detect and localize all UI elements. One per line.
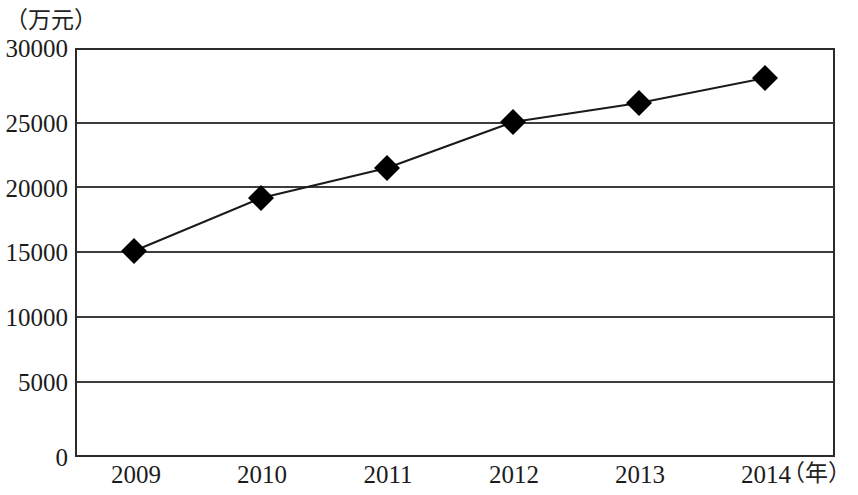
x-tick-label: 2012 xyxy=(454,462,574,488)
x-tick-label: 2013 xyxy=(580,462,700,488)
line-chart: （万元） 30000 25000 20000 15000 10000 5000 … xyxy=(0,0,858,495)
x-axis-unit-label: （年） xyxy=(782,459,851,489)
x-tick-label: 2009 xyxy=(76,462,196,488)
x-axis-tick-labels: 2009 2010 2011 2012 2013 2014 xyxy=(0,0,858,495)
x-tick-label: 2010 xyxy=(202,462,322,488)
x-tick-label: 2011 xyxy=(328,462,448,488)
